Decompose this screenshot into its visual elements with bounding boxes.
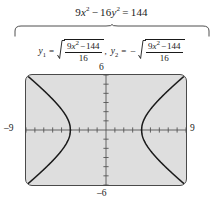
- y2-numerator: 9x2−144: [146, 41, 183, 53]
- equation-separator-comma: ,: [104, 46, 111, 56]
- over-brace: [14, 24, 210, 37]
- x-axis-max-label: 9: [190, 123, 195, 133]
- y-axis-min-label: –6: [97, 188, 107, 198]
- y2-label: y2: [111, 46, 118, 56]
- graph-viewport-container: 6 –6 –9 9: [0, 60, 223, 208]
- y-axis-max-label: 6: [99, 62, 104, 72]
- y1-equals: =: [46, 46, 57, 56]
- calculator-screen[interactable]: [25, 74, 187, 186]
- y1-numerator: 9x2−144: [65, 41, 102, 53]
- minus-operator: −: [90, 6, 100, 18]
- x-axis-min-label: –9: [4, 123, 14, 133]
- right-hand-side-144: 144: [131, 6, 148, 18]
- y2-negative-sign: −: [129, 46, 138, 57]
- hyperbola-plot: [26, 75, 186, 185]
- equals-sign: =: [120, 6, 130, 18]
- main-equation: 9x2−16y2=144: [0, 6, 223, 18]
- y1-label: y1: [38, 46, 45, 56]
- y2-equals: =: [118, 46, 129, 56]
- coefficient-16: 16: [100, 6, 111, 18]
